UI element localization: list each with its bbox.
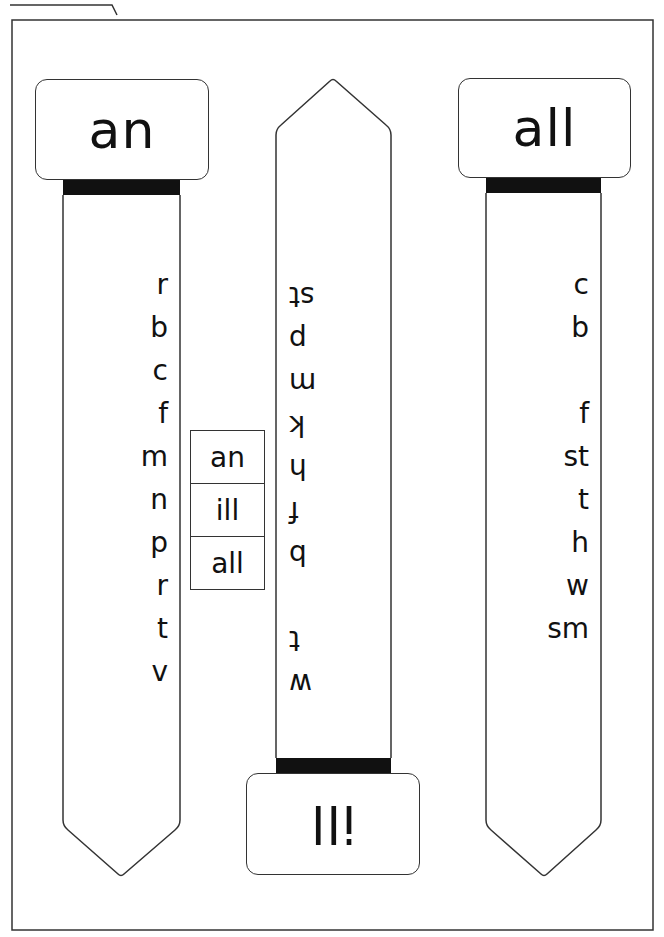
flipped-letter: f [289,490,299,533]
flipped-letter: k [289,404,305,447]
right-strip-header: all [458,78,631,178]
flipped-letter: h [289,447,307,490]
right-strip-letters: c b f st t h w sm [547,263,589,650]
letter: sm [547,607,589,650]
left-strip-band [63,180,180,195]
middle-strip-band [276,758,391,773]
left-header-label: an [89,104,156,156]
flipped-letter: w [289,662,312,705]
left-strip-letters: r b c f m n p r t v [141,263,168,693]
letter: b [150,306,168,349]
letter: v [151,650,168,693]
letter: w [566,564,589,607]
word-cell-ill: ill [191,484,264,537]
letter: p [150,521,168,564]
right-strip-band [486,178,601,193]
right-header-label: all [513,102,577,154]
middle-strip-letters: st p m k h f b t w [289,275,316,705]
flipped-letter: b [289,533,307,576]
flipped-letter: p [289,318,307,361]
letter: st [563,435,589,478]
middle-header-label: ill [310,798,356,850]
middle-strip-header: ill [246,773,420,875]
letter: r [156,263,168,306]
letter: f [158,392,168,435]
flipped-letter: t [289,619,300,662]
letter: n [150,478,168,521]
letter: t [578,478,589,521]
letter: b [571,306,589,349]
word-window: an ill all [190,430,265,590]
page-tab-fragment [10,5,117,15]
letter: r [156,564,168,607]
flipped-letter: st [289,275,315,318]
letter: c [153,349,168,392]
letter: c [574,263,589,306]
word-cell-all: all [191,537,264,590]
word-cell-an: an [191,431,264,484]
letter: f [579,392,589,435]
letter: m [141,435,168,478]
flipped-letter: m [289,361,316,404]
left-strip-header: an [35,79,209,180]
letter: h [571,521,589,564]
letter: t [157,607,168,650]
